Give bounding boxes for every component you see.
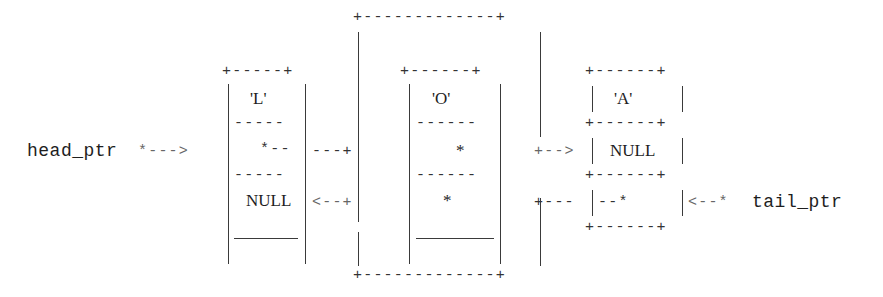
outer-loop-left-upper xyxy=(358,32,359,222)
node-l-divider-1: ----- xyxy=(234,114,285,134)
connector-o-to-a: +--> xyxy=(534,142,575,162)
node-l-prev-null: NULL xyxy=(246,191,291,211)
node-a-data: 'A' xyxy=(614,89,632,109)
outer-loop-top: +-------------+ xyxy=(353,8,506,28)
tail-ptr-arrow: <--* xyxy=(688,193,729,213)
outer-loop-right-upper xyxy=(540,32,541,137)
outer-loop-left-lower xyxy=(358,232,359,266)
connector-a-back-to-o: +--- xyxy=(534,193,575,213)
node-a-divider-1: +------+ xyxy=(585,114,667,134)
node-o-left-border xyxy=(409,84,410,264)
head-ptr-label: head_ptr xyxy=(27,141,117,161)
node-a-prev-pointer: --* xyxy=(598,193,629,213)
node-o-bottom-border xyxy=(416,238,494,239)
node-a-left-border-3 xyxy=(592,190,593,216)
node-l-right-border xyxy=(305,84,306,264)
node-a-right-border-3 xyxy=(682,190,683,216)
node-l-divider-2: ----- xyxy=(234,166,285,186)
node-l-bottom-border xyxy=(234,238,298,239)
outer-loop-bottom: +-------------+ xyxy=(353,266,506,286)
node-o-divider-2: ------ xyxy=(416,166,477,186)
head-ptr-arrow: *---> xyxy=(138,142,189,162)
node-l-data: 'L' xyxy=(250,89,267,109)
connector-o-back-to-l: <--+ xyxy=(312,193,353,213)
node-l-left-border xyxy=(228,84,229,264)
node-o-right-border xyxy=(500,84,501,264)
node-o-data: 'O' xyxy=(432,89,450,109)
node-l-top-border: +-----+ xyxy=(222,62,293,82)
node-a-left-border-2 xyxy=(592,138,593,164)
node-l-next-pointer: *-- xyxy=(260,140,291,160)
node-o-top-border: +------+ xyxy=(400,62,482,82)
node-a-top-border: +------+ xyxy=(585,62,667,82)
node-o-divider-1: ------ xyxy=(416,114,477,134)
tail-ptr-label: tail_ptr xyxy=(752,192,842,212)
connector-l-to-o: ---+ xyxy=(312,142,353,162)
node-a-right-border-1 xyxy=(682,86,683,112)
node-a-divider-2: +------+ xyxy=(585,166,667,186)
node-a-next-null: NULL xyxy=(610,141,655,161)
node-a-left-border-1 xyxy=(592,86,593,112)
node-o-prev-pointer: * xyxy=(443,191,452,211)
node-a-right-border-2 xyxy=(682,138,683,164)
node-o-next-pointer: * xyxy=(456,141,465,161)
node-a-bottom-border: +------+ xyxy=(585,218,667,238)
